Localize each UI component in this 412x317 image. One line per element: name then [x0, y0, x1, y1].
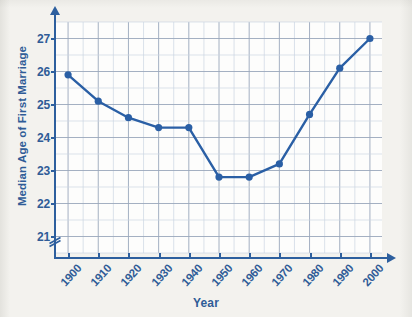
x-axis-title: Year	[0, 296, 412, 310]
x-tick-label: 1910	[88, 262, 114, 288]
y-tick-label: 22	[26, 197, 50, 211]
x-tick-label: 1950	[209, 262, 235, 288]
x-tick-mark	[68, 253, 70, 258]
y-tick-label: 26	[26, 65, 50, 79]
y-tick-mark	[51, 203, 56, 205]
y-tick-label: 23	[26, 164, 50, 178]
x-tick-mark	[128, 253, 130, 258]
y-tick-mark	[51, 170, 56, 172]
x-tick-label: 1940	[179, 262, 205, 288]
y-tick-label: 24	[26, 131, 50, 145]
y-tick-label: 21	[26, 230, 50, 244]
x-tick-mark	[159, 253, 161, 258]
x-tick-label: 1970	[269, 262, 295, 288]
x-tick-mark	[98, 253, 100, 258]
y-tick-mark	[51, 137, 56, 139]
x-tick-label: 2000	[360, 262, 386, 288]
x-tick-mark	[340, 253, 342, 258]
y-axis-title: Median Age of First Marriage	[16, 16, 28, 236]
x-tick-label: 1980	[300, 262, 326, 288]
x-tick-label: 1990	[330, 262, 356, 288]
y-tick-mark	[51, 104, 56, 106]
x-tick-mark	[279, 253, 281, 258]
y-tick-mark	[51, 236, 56, 238]
y-tick-mark	[51, 38, 56, 40]
y-axis-arrow-icon	[50, 6, 60, 15]
series-line-median-age	[56, 22, 382, 253]
x-tick-label: 1920	[119, 262, 145, 288]
x-tick-label: 1960	[239, 262, 265, 288]
x-tick-mark	[370, 253, 372, 258]
plot-area	[56, 22, 382, 253]
chart-figure: 21222324252627 1900191019201930194019501…	[0, 0, 412, 317]
x-tick-mark	[189, 253, 191, 258]
y-tick-label: 27	[26, 32, 50, 46]
y-tick-mark	[51, 71, 56, 73]
x-tick-mark	[219, 253, 221, 258]
y-tick-label: 25	[26, 98, 50, 112]
x-tick-label: 1930	[149, 262, 175, 288]
x-axis-arrow-icon	[387, 253, 396, 263]
x-tick-mark	[310, 253, 312, 258]
x-tick-mark	[249, 253, 251, 258]
x-tick-label: 1900	[58, 262, 84, 288]
